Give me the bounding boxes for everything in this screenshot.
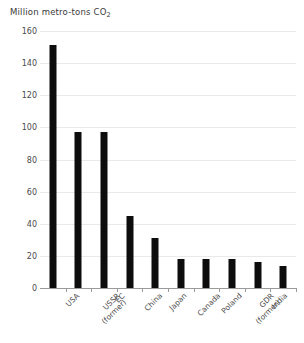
y-axis-tick-label: 60: [6, 187, 40, 196]
x-axis-tick-label-line: Canada: [196, 292, 222, 318]
y-axis-tick-label: 0: [6, 284, 40, 293]
x-axis-tick-label: China: [143, 292, 164, 313]
bar: [280, 266, 287, 288]
plot-area: [40, 31, 296, 288]
y-axis-tick-label: 100: [6, 123, 40, 132]
chart-title: Million metro-tons CO2: [10, 7, 111, 17]
chart-title-text: Million metro-tons CO: [10, 7, 107, 17]
x-axis-tick-mark: [296, 288, 297, 292]
bar: [229, 259, 236, 288]
bar: [177, 259, 184, 288]
bar-chart: Million metro-tons CO2 02040608010012014…: [0, 0, 304, 343]
x-axis-tick-label-line: China: [143, 292, 164, 313]
bar: [126, 216, 133, 288]
x-axis-tick-label-line: USA: [64, 292, 81, 309]
x-axis-tick-label-line: Poland: [221, 292, 245, 316]
bar: [254, 262, 261, 288]
y-axis-tick-label: 140: [6, 59, 40, 68]
bar: [101, 132, 108, 288]
x-axis-tick-label: Canada: [196, 292, 222, 318]
y-axis-tick-label: 40: [6, 219, 40, 228]
chart-title-subscript: 2: [107, 11, 111, 19]
y-axis-tick-label: 120: [6, 91, 40, 100]
y-axis-tick-labels: 020406080100120140160: [0, 31, 40, 289]
bar: [75, 132, 82, 288]
y-axis-tick-label: 20: [6, 251, 40, 260]
bar-series: [40, 31, 296, 288]
y-axis-tick-label: 160: [6, 27, 40, 36]
x-axis-tick-label-line: Japan: [168, 292, 189, 313]
x-axis-tick-labels: USAUSSR(former)ECChinaJapanCanadaPolandG…: [40, 292, 296, 343]
y-axis-tick-label: 80: [6, 155, 40, 164]
bar: [49, 45, 56, 288]
x-axis-tick-label: Poland: [221, 292, 245, 316]
x-axis-tick-label: USA: [64, 292, 81, 309]
bar: [152, 238, 159, 288]
bar: [203, 259, 210, 288]
x-axis-tick-label: Japan: [168, 292, 189, 313]
